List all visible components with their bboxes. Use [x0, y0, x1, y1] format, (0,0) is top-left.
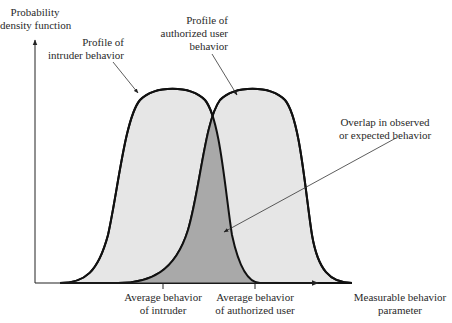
average-intruder-label: Average behavior of intruder	[113, 291, 213, 317]
y-axis-label: Probability density function	[0, 6, 70, 32]
user-label-line2: authorized user	[150, 27, 228, 40]
average-intruder-line1: Average behavior	[113, 291, 213, 304]
intruder-profile-label: Profile of intruder behavior	[40, 36, 124, 62]
overlap-label-line2: or expected behavior	[325, 129, 445, 142]
x-axis-label: Measurable behavior parameter	[350, 291, 450, 317]
user-label-leader	[212, 54, 237, 95]
user-label-line1: Profile of	[150, 14, 228, 27]
overlap-label-line1: Overlap in observed	[325, 116, 445, 129]
x-axis-label-line1: Measurable behavior	[350, 291, 450, 304]
user-label-line3: behavior	[150, 40, 228, 53]
y-axis-label-line1: Probability	[0, 6, 70, 19]
overlap-label: Overlap in observed or expected behavior	[325, 116, 445, 142]
y-axis-label-line2: density function	[0, 19, 70, 32]
x-axis-label-line2: parameter	[350, 304, 450, 317]
authorized-user-profile-label: Profile of authorized user behavior	[150, 14, 228, 53]
average-authorized-user-label: Average behavior of authorized user	[200, 291, 310, 317]
average-user-line2: of authorized user	[200, 304, 310, 317]
intruder-label-leader	[113, 62, 138, 93]
intruder-label-line2: intruder behavior	[40, 49, 124, 62]
average-user-line1: Average behavior	[200, 291, 310, 304]
intruder-label-line1: Profile of	[40, 36, 124, 49]
average-intruder-line2: of intruder	[113, 304, 213, 317]
